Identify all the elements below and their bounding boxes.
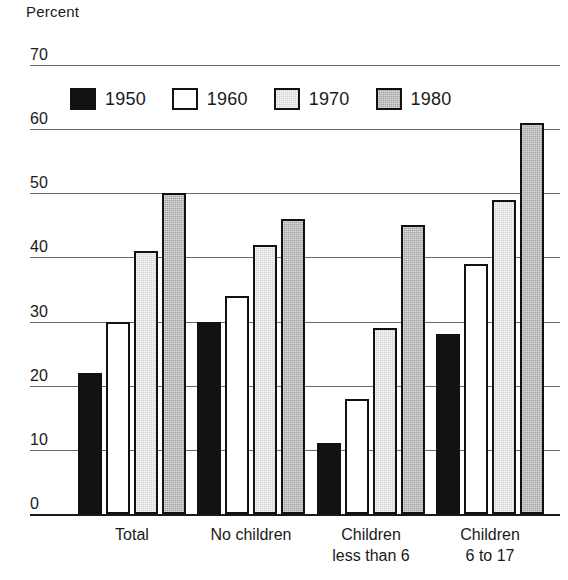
- bar[interactable]: [78, 373, 102, 514]
- bar-group: [78, 65, 190, 514]
- legend-label: 1980: [411, 89, 452, 110]
- bar[interactable]: [106, 322, 130, 514]
- legend-label: 1960: [207, 89, 248, 110]
- legend-label: 1950: [105, 89, 146, 110]
- bar[interactable]: [134, 251, 158, 514]
- plot-area: 010203040506070: [30, 65, 560, 514]
- bar[interactable]: [401, 225, 425, 514]
- legend-item-1960[interactable]: 1960: [172, 88, 248, 110]
- bar[interactable]: [345, 399, 369, 514]
- y-axis-title: Percent: [26, 3, 79, 20]
- bar-group: [197, 65, 309, 514]
- black-filled-swatch: [70, 88, 96, 110]
- legend-item-1950[interactable]: 1950: [70, 88, 146, 110]
- legend-label: 1970: [309, 89, 350, 110]
- bar[interactable]: [436, 334, 460, 514]
- light-gray-filled-swatch: [274, 88, 300, 110]
- x-axis-category-labels: TotalNo childrenChildrenless than 6Child…: [30, 518, 560, 578]
- bar-group: [436, 65, 548, 514]
- bar[interactable]: [281, 219, 305, 514]
- gridline-0: [30, 514, 560, 516]
- bar[interactable]: [373, 328, 397, 514]
- legend: 1950196019701980: [66, 86, 455, 112]
- legend-item-1970[interactable]: 1970: [274, 88, 350, 110]
- bar-group: [317, 65, 429, 514]
- bar[interactable]: [197, 322, 221, 514]
- bar-groups: [30, 65, 560, 514]
- y-tick-label-70: 70: [30, 46, 56, 64]
- white-filled-swatch: [172, 88, 198, 110]
- bar[interactable]: [317, 443, 341, 514]
- bar[interactable]: [520, 123, 544, 514]
- bar[interactable]: [492, 200, 516, 514]
- x-axis-label: Children6 to 17: [415, 524, 565, 566]
- bar[interactable]: [464, 264, 488, 514]
- legend-item-1980[interactable]: 1980: [376, 88, 452, 110]
- bar[interactable]: [162, 193, 186, 514]
- bar-chart: Percent 010203040506070 1950196019701980…: [0, 0, 568, 580]
- bar[interactable]: [225, 296, 249, 514]
- bar[interactable]: [253, 245, 277, 514]
- medium-gray-filled-swatch: [376, 88, 402, 110]
